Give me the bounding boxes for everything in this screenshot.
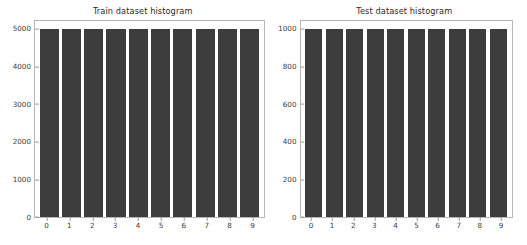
bar — [469, 29, 486, 217]
y-axis-tick-label: 3000 — [13, 100, 35, 107]
subplot-train: Train dataset histogram 0100020003000400… — [0, 0, 264, 245]
x-axis-tick-label: 3 — [372, 217, 377, 229]
bar — [428, 29, 445, 217]
x-axis-tick-label: 1 — [330, 217, 335, 229]
x-axis-tick-label: 0 — [44, 217, 49, 229]
x-axis-tick-label: 9 — [499, 217, 504, 229]
x-axis-tick-label: 5 — [159, 217, 164, 229]
x-axis-tick-label: 1 — [67, 217, 72, 229]
y-axis-tick-label: 400 — [283, 138, 301, 145]
x-axis-tick-label: 7 — [456, 217, 461, 229]
bar — [408, 29, 425, 217]
bar — [218, 29, 237, 217]
x-axis-tick-label: 5 — [414, 217, 419, 229]
bar — [490, 29, 507, 217]
chart-title-train: Train dataset histogram — [0, 6, 264, 16]
bar — [326, 29, 343, 217]
bar — [40, 29, 59, 217]
y-axis-tick-label: 0 — [26, 213, 35, 220]
y-axis-tick-label: 4000 — [13, 63, 35, 70]
bar — [106, 29, 125, 217]
x-axis-tick-label: 6 — [182, 217, 187, 229]
bar — [240, 29, 259, 217]
bar — [387, 29, 404, 217]
bar — [173, 29, 192, 217]
x-axis-tick-label: 9 — [250, 217, 255, 229]
bar — [129, 29, 148, 217]
bar — [196, 29, 215, 217]
y-axis-tick-label: 0 — [292, 213, 301, 220]
x-axis-tick-label: 8 — [227, 217, 232, 229]
x-axis-tick-label: 3 — [113, 217, 118, 229]
x-axis-tick-label: 6 — [435, 217, 440, 229]
bar — [62, 29, 81, 217]
y-axis-tick-label: 200 — [283, 176, 301, 183]
bar — [84, 29, 103, 217]
subplot-test: Test dataset histogram 02004006008001000… — [264, 0, 527, 245]
x-axis-tick-label: 2 — [351, 217, 356, 229]
y-axis-tick-label: 800 — [283, 63, 301, 70]
figure: Train dataset histogram 0100020003000400… — [0, 0, 527, 245]
axes-train: 0100020003000400050000123456789 — [34, 20, 265, 218]
x-axis-tick-label: 4 — [393, 217, 398, 229]
plot-area-test — [301, 21, 512, 217]
y-axis-tick-label: 2000 — [13, 138, 35, 145]
y-axis-tick-label: 5000 — [13, 25, 35, 32]
bar — [151, 29, 170, 217]
bar — [449, 29, 466, 217]
y-axis-tick-label: 1000 — [13, 176, 35, 183]
plot-area-train — [35, 21, 264, 217]
bar — [305, 29, 322, 217]
x-axis-tick-label: 2 — [90, 217, 95, 229]
y-axis-tick-label: 1000 — [278, 25, 300, 32]
y-axis-tick-label: 600 — [283, 100, 301, 107]
bar — [346, 29, 363, 217]
axes-test: 020040060080010000123456789 — [300, 20, 513, 218]
chart-title-test: Test dataset histogram — [264, 6, 527, 16]
x-axis-tick-label: 7 — [204, 217, 209, 229]
x-axis-tick-label: 0 — [309, 217, 314, 229]
bar — [367, 29, 384, 217]
x-axis-tick-label: 8 — [478, 217, 483, 229]
x-axis-tick-label: 4 — [136, 217, 141, 229]
